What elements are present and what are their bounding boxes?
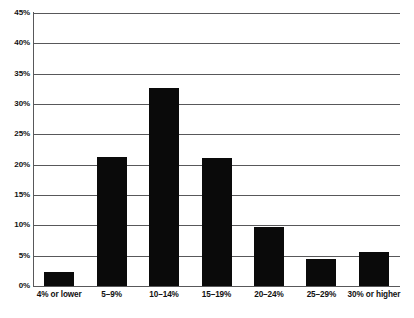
y-tick-label-15%: 15% [2,191,30,199]
y-tick-label-45%: 45% [2,9,30,17]
bar [254,227,284,286]
y-tick-label-40%: 40% [2,39,30,47]
bar [359,252,389,286]
bar [306,259,336,286]
y-tick-label-20%: 20% [2,161,30,169]
bar-chart-figure: 0%5%10%15%20%25%30%35%40%45% 4% or lower… [0,0,414,318]
bar [97,157,127,286]
y-tick-label-25%: 25% [2,130,30,138]
bar [149,88,179,286]
bar [202,158,232,286]
y-tick-label-0%: 0% [2,282,30,290]
bars-layer [33,13,400,286]
gridline-0% [33,286,400,287]
y-tick-label-35%: 35% [2,70,30,78]
y-tick-label-5%: 5% [2,252,30,260]
x-tick-label: 15–19% [190,290,242,299]
bar [44,272,74,286]
x-tick-label: 5–9% [85,290,137,299]
x-tick-label: 4% or lower [33,290,85,299]
y-axis-tick-labels: 0%5%10%15%20%25%30%35%40%45% [0,0,30,318]
y-tick-label-30%: 30% [2,100,30,108]
x-tick-label: 10–14% [138,290,190,299]
y-tick-label-10%: 10% [2,221,30,229]
x-tick-label: 30% or higher [348,290,400,299]
x-tick-label: 25–29% [295,290,347,299]
x-tick-label: 20–24% [243,290,295,299]
